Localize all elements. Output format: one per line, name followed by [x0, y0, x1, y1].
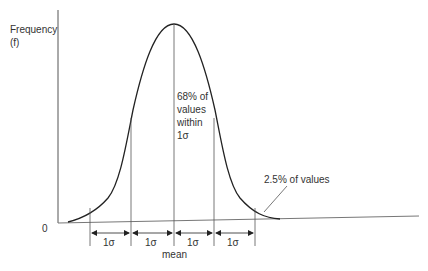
interval-label-1: 1σ [103, 237, 116, 248]
mean-label: mean [162, 249, 187, 260]
center-annotation-line3: within [176, 117, 203, 128]
center-annotation-line1: 68% of [177, 91, 208, 102]
interval-label-3: 1σ [187, 237, 200, 248]
origin-label: 0 [42, 223, 48, 234]
x-axis [58, 216, 419, 223]
interval-label-4: 1σ [227, 237, 240, 248]
tail-annotation: 2.5% of values [264, 174, 330, 185]
center-annotation-line2: values [177, 104, 206, 115]
y-axis-label-line2: (f) [10, 37, 19, 48]
center-annotation-line4: 1σ [177, 130, 190, 141]
tail-leader-line [264, 186, 287, 212]
y-axis-label-line1: Frequency [10, 24, 57, 35]
interval-label-2: 1σ [145, 237, 158, 248]
normal-distribution-diagram: Frequency (f) 0 mean 68% of values withi… [0, 0, 428, 271]
